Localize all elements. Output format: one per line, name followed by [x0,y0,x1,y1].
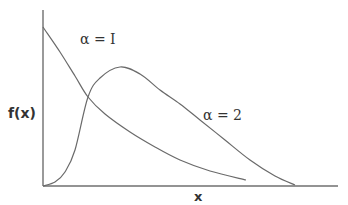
y-axis-label: f(x) [8,106,36,120]
series-label-alpha-2: α = 2 [203,108,242,122]
density-chart [0,0,348,205]
series-label-alpha-1: α = I [80,32,116,46]
curve-alpha-1 [43,27,246,180]
x-axis-label: x [194,190,202,203]
